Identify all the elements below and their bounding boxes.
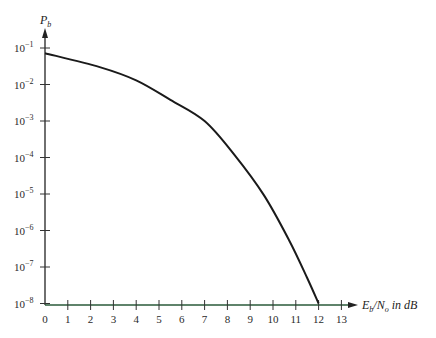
y-tick-label: 10−6: [14, 223, 34, 237]
y-axis-arrow-icon: [42, 28, 48, 38]
y-tick-label: 10−5: [14, 186, 34, 200]
x-tick-label: 6: [179, 313, 185, 325]
x-tick-label: 3: [111, 313, 117, 325]
x-tick-label: 7: [202, 313, 208, 325]
x-tick-label: 1: [65, 313, 71, 325]
x-tick-label: 9: [247, 313, 253, 325]
x-axis-arrow-icon: [348, 302, 358, 308]
x-tick-label: 11: [291, 313, 302, 325]
ber-chart: 10−110−210−310−410−510−610−710−8 0123456…: [0, 0, 436, 338]
x-tick-label: 5: [156, 313, 162, 325]
y-tick-label: 10−4: [14, 150, 34, 164]
ber-curve: [45, 53, 319, 303]
x-tick-label: 4: [133, 313, 139, 325]
x-ticks: 012345678910111213: [42, 300, 347, 325]
y-axis-title: Pb: [39, 13, 51, 29]
x-tick-label: 0: [42, 313, 48, 325]
x-tick-label: 2: [88, 313, 94, 325]
x-tick-label: 10: [268, 313, 280, 325]
x-tick-label: 13: [336, 313, 348, 325]
y-tick-label: 10−3: [14, 113, 34, 127]
x-axis-title: Eb/No in dB: [361, 298, 418, 314]
y-tick-label: 10−2: [14, 77, 34, 91]
y-tick-label: 10−8: [14, 296, 34, 310]
y-tick-label: 10−7: [14, 259, 34, 273]
x-tick-label: 8: [225, 313, 231, 325]
x-tick-label: 12: [313, 313, 324, 325]
y-tick-label: 10−1: [14, 40, 34, 54]
